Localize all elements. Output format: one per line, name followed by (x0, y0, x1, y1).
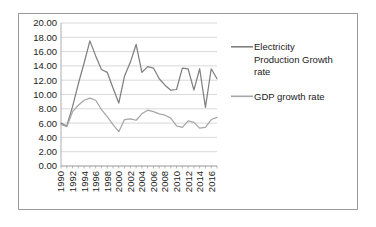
x-tick-label: 1998 (102, 171, 113, 192)
series-line (61, 41, 217, 126)
legend-label: GDP growth rate (254, 91, 325, 102)
chart-frame: 0.002.004.006.008.0010.0012.0014.0016.00… (18, 13, 358, 210)
chart-screenshot: 0.002.004.006.008.0010.0012.0014.0016.00… (0, 0, 376, 227)
y-tick-label: 20.00 (33, 17, 57, 28)
x-tick-label: 2010 (171, 171, 182, 192)
x-tick-label: 2008 (159, 171, 170, 192)
x-tick-label: 2006 (148, 171, 159, 192)
x-tick-label: 2014 (194, 171, 205, 192)
y-tick-label: 2.00 (39, 146, 58, 157)
y-tick-label: 0.00 (39, 160, 58, 171)
y-tick-label: 16.00 (33, 46, 57, 57)
x-tick-label: 2004 (136, 171, 147, 192)
legend-label: Electricity (254, 41, 295, 52)
y-tick-label: 18.00 (33, 32, 57, 43)
y-tick-label: 12.00 (33, 75, 57, 86)
y-tick-label: 10.00 (33, 89, 57, 100)
x-tick-label: 1992 (67, 171, 78, 192)
y-tick-label: 4.00 (39, 132, 58, 143)
x-tick-label: 1996 (90, 171, 101, 192)
x-axis (61, 166, 217, 169)
y-tick-label: 14.00 (33, 60, 57, 71)
data-series-group (61, 41, 217, 132)
x-tick-label: 1994 (79, 171, 90, 192)
x-axis-tick-labels: 1990199219941996199820002002200420062008… (55, 171, 216, 192)
y-tick-label: 6.00 (39, 118, 58, 129)
legend-label: Production Growth (254, 54, 333, 65)
line-chart: 0.002.004.006.008.0010.0012.0014.0016.00… (19, 14, 357, 209)
x-tick-label: 2012 (183, 171, 194, 192)
x-tick-label: 1990 (55, 171, 66, 192)
y-tick-label: 8.00 (39, 103, 58, 114)
x-tick-label: 2016 (206, 171, 217, 192)
x-tick-label: 2000 (113, 171, 124, 192)
grid-lines (61, 23, 217, 166)
series-line (61, 98, 217, 132)
chart-legend: ElectricityProduction GrowthrateGDP grow… (231, 41, 333, 102)
x-tick-label: 2002 (125, 171, 136, 192)
legend-label: rate (254, 66, 270, 77)
y-axis-tick-labels: 0.002.004.006.008.0010.0012.0014.0016.00… (33, 17, 57, 171)
